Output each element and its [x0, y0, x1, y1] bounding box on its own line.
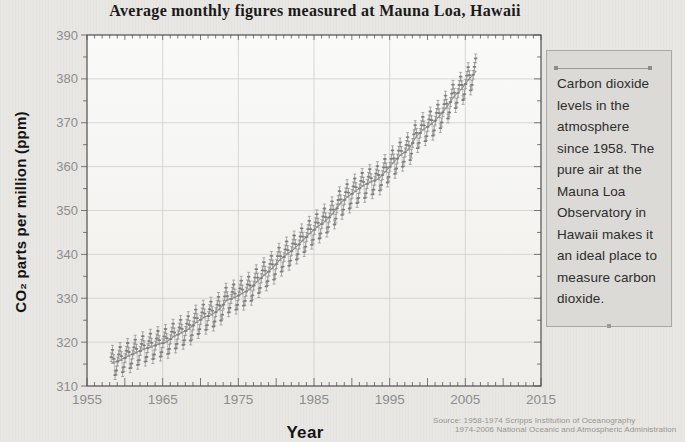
rule-end-square-left: [554, 66, 558, 70]
y-tick-label: 370: [56, 115, 78, 130]
x-tick-label: 1955: [72, 392, 102, 407]
y-tick-label: 320: [56, 335, 78, 350]
caption-box: Carbon dioxide levels in the atmosphere …: [546, 50, 672, 327]
x-tick-label: 1995: [375, 392, 405, 407]
y-tick-label: 330: [56, 291, 78, 306]
y-tick-label: 350: [56, 203, 78, 218]
source-line-1: Source: 1958-1974 Scripps Institution of…: [433, 416, 676, 425]
source-line-2: 1974-2006 National Oceanic and Atmospher…: [455, 425, 676, 434]
caption-handle-square: [607, 324, 611, 328]
rule-end-square-right: [648, 66, 652, 70]
infographic-page: Average monthly figures measured at Maun…: [0, 0, 685, 442]
x-tick-label: 2015: [526, 392, 556, 407]
y-tick-label: 360: [56, 159, 78, 174]
x-tick-label: 1975: [223, 392, 253, 407]
caption-text: Carbon dioxide levels in the atmosphere …: [557, 73, 664, 310]
caption-rule-line: [556, 68, 650, 69]
x-tick-label: 1985: [299, 392, 329, 407]
x-tick-label: 2005: [450, 392, 480, 407]
x-tick-label: 1965: [148, 392, 178, 407]
y-tick-label: 340: [56, 247, 78, 262]
source-credit: Source: 1958-1974 Scripps Institution of…: [433, 416, 676, 434]
y-tick-label: 380: [56, 71, 78, 86]
y-tick-label: 390: [56, 28, 78, 43]
